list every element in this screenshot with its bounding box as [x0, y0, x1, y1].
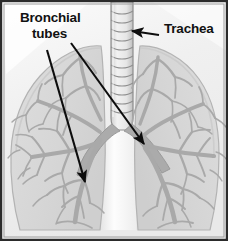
- trachea: [111, 2, 133, 130]
- respiratory-diagram-canvas: Bronchial tubes Trachea: [0, 0, 228, 241]
- label-bronchial-tubes-line1: Bronchial: [20, 10, 80, 25]
- anatomy-figure: Bronchial tubes Trachea: [0, 0, 228, 241]
- label-bronchial-tubes-line2: tubes: [32, 26, 67, 41]
- label-trachea: Trachea: [164, 21, 214, 36]
